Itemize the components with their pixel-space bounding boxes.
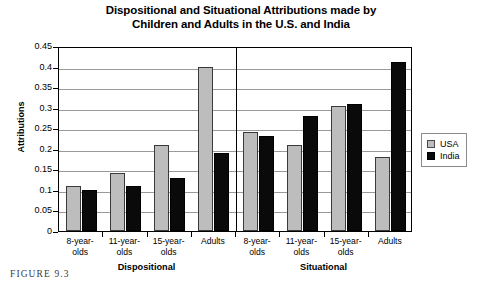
x-category-label-line2: olds: [279, 247, 323, 258]
bar-usa-4: [243, 132, 258, 231]
x-category-label: 11-year-olds: [279, 236, 323, 257]
x-category-label-line1: 11-year-: [279, 236, 323, 247]
y-tick-label: 0: [8, 227, 52, 236]
x-category-label: 11-year-olds: [102, 236, 146, 257]
legend-item-india: India: [427, 150, 460, 162]
y-tick-label: 0.15: [8, 165, 52, 174]
legend-item-usa: USA: [427, 138, 460, 150]
bar-usa-3: [198, 67, 213, 231]
bar-usa-7: [375, 157, 390, 231]
x-category-label-line1: Adults: [191, 236, 235, 247]
x-category-label: 15-year-olds: [324, 236, 368, 257]
chart-title: Dispositional and Situational Attributio…: [60, 3, 422, 31]
plot-area: [58, 47, 412, 232]
bar-usa-1: [110, 173, 125, 231]
bar-usa-6: [331, 106, 346, 231]
bar-india-3: [214, 153, 229, 231]
usa-swatch-icon: [427, 140, 435, 148]
bar-usa-2: [154, 145, 169, 231]
bar-usa-0: [66, 186, 81, 231]
chart-title-line-1: Dispositional and Situational Attributio…: [60, 3, 422, 17]
y-tick-label: 0.1: [8, 186, 52, 195]
bar-india-6: [347, 104, 362, 231]
bar-usa-5: [287, 145, 302, 231]
y-tick-label: 0.25: [8, 124, 52, 133]
x-category-label-line1: Adults: [368, 236, 412, 247]
x-category-label-line1: 15-year-: [324, 236, 368, 247]
legend-label-india: India: [440, 152, 460, 161]
bars-layer: [59, 48, 411, 231]
x-category-label: 15-year-olds: [147, 236, 191, 257]
bar-india-0: [82, 190, 97, 231]
x-category-label-line2: olds: [58, 247, 102, 258]
bar-india-4: [259, 136, 274, 231]
y-tick-label: 0.4: [8, 63, 52, 72]
x-category-label-line1: 11-year-: [102, 236, 146, 247]
y-tick-label: 0.2: [8, 145, 52, 154]
x-group-label: Dispositional: [58, 262, 235, 272]
y-tick-label: 0.3: [8, 104, 52, 113]
y-tick-label: 0.45: [8, 42, 52, 51]
legend-label-usa: USA: [440, 140, 459, 149]
y-tick-label: 0.05: [8, 206, 52, 215]
x-category-label: 8-year-olds: [235, 236, 279, 257]
bar-india-2: [170, 178, 185, 231]
bar-india-7: [391, 62, 406, 231]
x-category-label-line1: 8-year-: [235, 236, 279, 247]
y-tick-label: 0.35: [8, 83, 52, 92]
x-category-label-line1: 15-year-: [147, 236, 191, 247]
bar-india-5: [303, 116, 318, 231]
india-swatch-icon: [427, 152, 435, 160]
bar-india-1: [126, 186, 141, 231]
legend: USA India: [421, 133, 467, 167]
figure-caption: FIGURE 9.3: [10, 269, 70, 279]
figure-container: Dispositional and Situational Attributio…: [0, 0, 484, 290]
x-category-label: Adults: [191, 236, 235, 247]
x-category-label-line2: olds: [324, 247, 368, 258]
chart-title-line-2: Children and Adults in the U.S. and Indi…: [60, 17, 422, 31]
x-category-label: 8-year-olds: [58, 236, 102, 257]
x-category-label-line2: olds: [235, 247, 279, 258]
x-category-label-line2: olds: [147, 247, 191, 258]
x-category-label: Adults: [368, 236, 412, 247]
x-group-label: Situational: [235, 262, 412, 272]
x-category-label-line1: 8-year-: [58, 236, 102, 247]
x-category-label-line2: olds: [102, 247, 146, 258]
